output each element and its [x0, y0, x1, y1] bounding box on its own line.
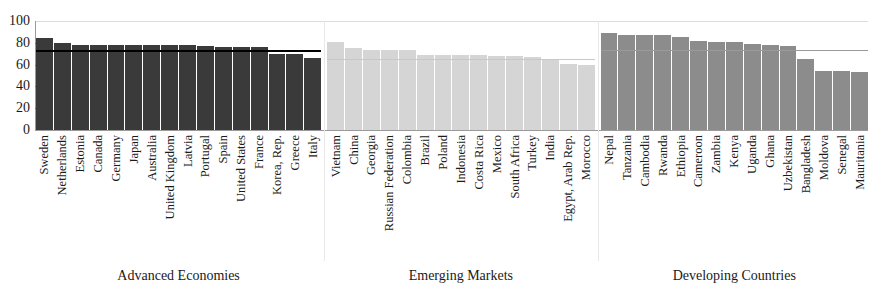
category-label: Greece	[286, 133, 303, 245]
bar	[601, 33, 618, 130]
category-label: Zambia	[708, 133, 725, 245]
category-label-text: Cambodia	[639, 135, 652, 186]
category-label: Vietnam	[327, 133, 344, 245]
average-line-advanced-economies	[36, 50, 321, 52]
category-label: Senegal	[833, 133, 850, 245]
category-label-text: Kenya	[728, 135, 741, 168]
category-label-text: Sweden	[38, 135, 51, 175]
category-label-text: Nepal	[603, 135, 616, 165]
bar	[179, 45, 196, 130]
category-label-text: United Kingdom	[163, 135, 176, 219]
category-label-text: Bangladesh	[800, 135, 813, 193]
category-label: Poland	[435, 133, 452, 245]
category-label: China	[345, 133, 362, 245]
category-label-text: Colombia	[401, 135, 414, 184]
bar	[708, 42, 725, 130]
category-label: Germany	[108, 133, 125, 245]
category-label: South Africa	[506, 133, 523, 245]
bar	[618, 35, 635, 130]
average-line-developing-countries	[601, 50, 868, 51]
panel-separator-1	[324, 21, 325, 261]
bar	[506, 56, 523, 130]
category-label-text: China	[347, 135, 360, 165]
bar	[578, 65, 595, 130]
y-axis-tick-label: 0	[23, 123, 30, 137]
bar	[488, 56, 505, 130]
bar-group-advanced-economies	[36, 21, 321, 130]
category-label-text: Spain	[217, 135, 230, 163]
bar	[161, 45, 178, 130]
category-label-text: Turkey	[526, 135, 539, 171]
bar-group-emerging-markets	[327, 21, 594, 130]
bar	[636, 35, 653, 130]
category-label: Russian Federation	[381, 133, 398, 245]
category-label-text: Greece	[289, 135, 302, 170]
category-label-text: Latvia	[181, 135, 194, 167]
bar	[125, 45, 142, 130]
x-axis-line	[35, 130, 868, 131]
category-label: Nepal	[601, 133, 618, 245]
category-label-text: Indonesia	[455, 135, 468, 184]
category-label-text: Vietnam	[329, 135, 342, 177]
category-label-text: Netherlands	[56, 135, 69, 195]
category-label: Sweden	[36, 133, 53, 245]
category-label-text: South Africa	[508, 135, 521, 199]
category-label-text: Zambia	[710, 135, 723, 173]
bar	[851, 72, 868, 130]
category-label-text: Rwanda	[656, 135, 669, 176]
y-axis-tick-label: 80	[16, 36, 30, 50]
category-label: Australia	[143, 133, 160, 245]
category-label: Rwanda	[654, 133, 671, 245]
bar	[470, 55, 487, 130]
category-label: Cameroon	[690, 133, 707, 245]
category-label: Egypt, Arab Rep.	[560, 133, 577, 245]
category-label-text: Canada	[92, 135, 105, 172]
category-label: France	[251, 133, 268, 245]
category-label-text: Ethiopia	[674, 135, 687, 177]
average-line-emerging-markets	[327, 59, 594, 60]
category-label: India	[542, 133, 559, 245]
bars-advanced-economies	[36, 21, 321, 130]
category-label: Canada	[90, 133, 107, 245]
bar	[690, 41, 707, 130]
bar	[399, 50, 416, 130]
y-axis-tick-label: 60	[16, 58, 30, 72]
category-labels-developing-countries: NepalTanzaniaCambodiaRwandaEthiopiaCamer…	[601, 133, 868, 245]
bar	[815, 71, 832, 130]
category-label-text: Morocco	[580, 135, 593, 180]
bar	[797, 59, 814, 130]
bar	[72, 45, 89, 130]
bar	[108, 45, 125, 130]
category-label-text: Portugal	[199, 135, 212, 177]
category-label-text: Mexico	[490, 135, 503, 173]
bar	[744, 44, 761, 130]
category-label: Colombia	[399, 133, 416, 245]
bar	[197, 46, 214, 130]
category-label: Mexico	[488, 133, 505, 245]
bar	[215, 47, 232, 130]
y-axis-tick-label: 20	[16, 101, 30, 115]
category-label: Kenya	[726, 133, 743, 245]
category-label: Indonesia	[452, 133, 469, 245]
category-label-text: Australia	[146, 135, 159, 181]
category-label: Georgia	[363, 133, 380, 245]
category-label-text: United States	[235, 135, 248, 202]
bar	[54, 43, 71, 130]
category-label: Portugal	[197, 133, 214, 245]
category-label-text: Estonia	[74, 135, 87, 173]
bar	[542, 60, 559, 130]
bar	[560, 64, 577, 130]
category-label-text: Korea, Rep.	[271, 135, 284, 195]
category-label-text: Uzbekistan	[782, 135, 795, 191]
category-label: Japan	[125, 133, 142, 245]
category-label: Estonia	[72, 133, 89, 245]
category-label-text: Ghana	[764, 135, 777, 168]
category-label-text: Germany	[110, 135, 123, 182]
category-label: Moldova	[815, 133, 832, 245]
category-label: Italy	[304, 133, 321, 245]
category-label-text: Costa Rica	[473, 135, 486, 190]
bar	[345, 48, 362, 130]
bar	[654, 35, 671, 130]
category-label: Ethiopia	[672, 133, 689, 245]
category-label-text: Georgia	[365, 135, 378, 175]
